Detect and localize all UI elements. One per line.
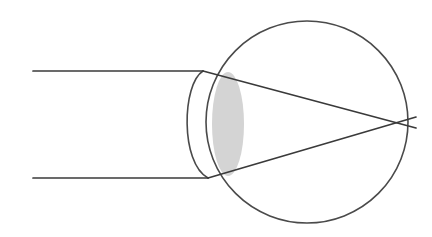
eye-refraction-diagram	[0, 0, 432, 237]
eye-diagram-canvas	[0, 0, 432, 237]
cornea-arc-outline	[187, 71, 208, 178]
crystalline-lens-shape	[212, 72, 244, 176]
